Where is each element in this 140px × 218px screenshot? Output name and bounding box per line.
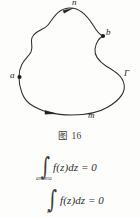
integral-subscript-gamma: Γ bbox=[47, 208, 50, 214]
contour-curve-group bbox=[19, 8, 124, 115]
formula-integral-ambna: ∫ ambna f(z)dz = 0 bbox=[0, 150, 140, 183]
contour-figure: n b a Γ m bbox=[0, 0, 140, 125]
contour-label-m: m bbox=[88, 111, 95, 120]
contour-label-n: n bbox=[72, 0, 77, 7]
integral-symbol-group: ∫ ambna bbox=[39, 154, 52, 179]
contour-path bbox=[19, 8, 124, 115]
contour-label-gamma: Γ bbox=[124, 69, 129, 78]
point-b-dot bbox=[101, 34, 105, 38]
formula-list: ∫ ambna f(z)dz = 0 ∫ Γ f(z)dz = 0 bbox=[0, 150, 140, 216]
formula-body-gamma: f(z)dz = 0 bbox=[60, 194, 104, 206]
figure-page: n b a Γ m 图 16 ∫ ambna f(z)dz = 0 ∫ Γ f(… bbox=[0, 0, 140, 218]
figure-caption: 图 16 bbox=[0, 128, 140, 142]
formula-integral-gamma: ∫ Γ f(z)dz = 0 bbox=[0, 183, 140, 216]
integral-subscript-ambna: ambna bbox=[36, 175, 52, 181]
point-a-dot bbox=[17, 75, 21, 79]
integral-symbol-group-2: ∫ Γ bbox=[46, 187, 59, 212]
contour-svg bbox=[0, 0, 140, 125]
contour-label-b: b bbox=[106, 28, 111, 37]
formula-body-ambna: f(z)dz = 0 bbox=[53, 161, 97, 173]
contour-label-a: a bbox=[10, 71, 15, 80]
arrow-marker-m bbox=[45, 111, 56, 115]
